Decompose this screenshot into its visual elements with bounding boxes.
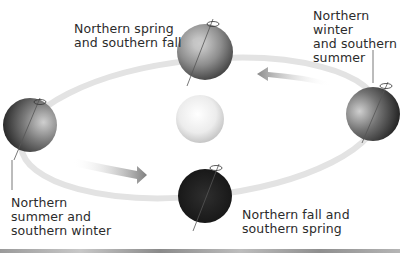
label-northern-fall: Northern fall and southern spring [242, 208, 350, 236]
globe-icon [177, 24, 233, 80]
label-line: Northern [11, 196, 111, 210]
label-line: and southern [313, 37, 397, 51]
earth-top [177, 19, 233, 86]
orbit-arrow-right [72, 158, 147, 184]
page-edge-divider [0, 249, 400, 253]
label-line: southern spring [242, 222, 350, 236]
sun-icon [176, 95, 224, 143]
globe-icon [346, 87, 400, 141]
label-line: Northern spring [74, 22, 182, 36]
label-northern-summer: Northern summer and southern winter [11, 196, 111, 238]
label-line: Northern [313, 9, 397, 23]
label-line: Northern fall and [242, 208, 350, 222]
earth-bottom [178, 164, 232, 231]
label-line: southern winter [11, 224, 111, 238]
label-line: and southern fall [74, 36, 182, 50]
seasons-diagram: Northern spring and southern fall Northe… [0, 0, 400, 253]
globe-icon [3, 98, 57, 152]
orbit-arrow-left [257, 67, 330, 86]
label-northern-spring: Northern spring and southern fall [74, 22, 182, 50]
label-line: winter [313, 23, 397, 37]
label-line: summer and [11, 210, 111, 224]
label-northern-winter: Northern winter and southern summer [313, 9, 397, 65]
label-line: summer [313, 51, 397, 65]
globe-icon [178, 169, 232, 223]
rotation-arrow-icon [210, 166, 222, 171]
